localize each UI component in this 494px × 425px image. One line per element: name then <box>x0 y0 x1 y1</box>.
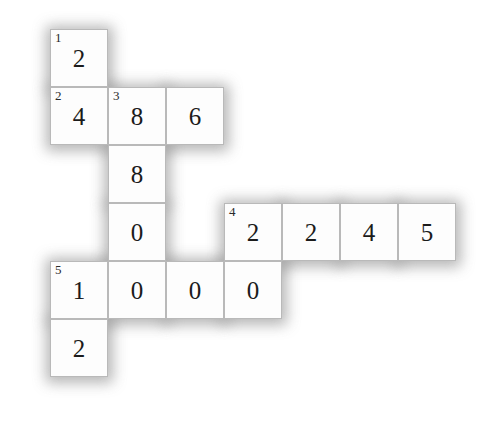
grid-cell[interactable]: 0 <box>166 261 224 319</box>
grid-cell[interactable]: 5 <box>398 203 456 261</box>
cell-clue-number: 2 <box>55 89 62 103</box>
cell-digit: 0 <box>109 220 165 245</box>
cell-digit: 2 <box>225 220 281 245</box>
cell-clue-number: 4 <box>229 205 236 219</box>
cell-clue-number: 3 <box>113 89 120 103</box>
cell-digit: 4 <box>341 220 397 245</box>
grid-cell[interactable]: 42 <box>224 203 282 261</box>
grid-cell[interactable]: 4 <box>340 203 398 261</box>
cell-digit: 0 <box>109 278 165 303</box>
grid-cell[interactable]: 51 <box>50 261 108 319</box>
cell-digit: 0 <box>225 278 281 303</box>
puzzle-grid: 12243868042245510002 <box>0 0 494 425</box>
grid-cell[interactable]: 2 <box>50 319 108 377</box>
cell-digit: 8 <box>109 162 165 187</box>
grid-cell[interactable]: 0 <box>108 203 166 261</box>
grid-cell[interactable]: 24 <box>50 87 108 145</box>
cell-digit: 5 <box>399 220 455 245</box>
cell-digit: 0 <box>167 278 223 303</box>
cell-digit: 1 <box>51 278 107 303</box>
grid-cell[interactable]: 38 <box>108 87 166 145</box>
grid-cell[interactable]: 6 <box>166 87 224 145</box>
grid-cell[interactable]: 0 <box>224 261 282 319</box>
grid-cell[interactable]: 0 <box>108 261 166 319</box>
cell-digit: 6 <box>167 104 223 129</box>
cell-clue-number: 5 <box>55 263 62 277</box>
cell-digit: 2 <box>283 220 339 245</box>
grid-cell[interactable]: 8 <box>108 145 166 203</box>
grid-cell[interactable]: 12 <box>50 29 108 87</box>
cell-digit: 4 <box>51 104 107 129</box>
cell-clue-number: 1 <box>55 31 62 45</box>
cell-digit: 8 <box>109 104 165 129</box>
cell-digit: 2 <box>51 336 107 361</box>
cell-digit: 2 <box>51 46 107 71</box>
grid-cell[interactable]: 2 <box>282 203 340 261</box>
